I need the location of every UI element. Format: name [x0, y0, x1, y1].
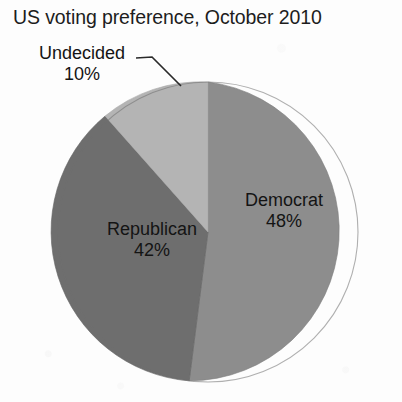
pie-label-republican: Republican 42% [84, 219, 220, 261]
pie-label-undecided: Undecided 10% [8, 43, 156, 85]
pie-label-undecided-name: Undecided [39, 43, 125, 63]
pie-label-republican-percent: 42% [84, 240, 220, 261]
pie-label-democrat: Democrat 48% [222, 190, 346, 232]
chart-canvas: US voting preference, October 2010 Undec… [0, 0, 402, 402]
pie-label-democrat-percent: 48% [222, 211, 346, 232]
pie-label-democrat-name: Democrat [245, 190, 323, 210]
pie-label-republican-name: Republican [107, 219, 197, 239]
pie-label-undecided-percent: 10% [8, 64, 156, 85]
